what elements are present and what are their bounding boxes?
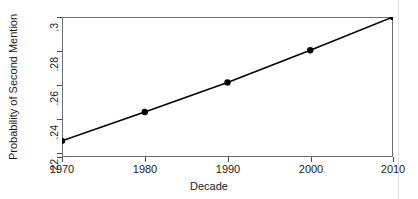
y-tick-1	[57, 153, 62, 154]
x-tick-label-2000: 2000	[299, 163, 323, 175]
x-tick-label-2010: 2010	[381, 163, 405, 175]
y-tick-5	[57, 17, 62, 18]
data-point-1980	[142, 109, 148, 115]
y-tick-3	[57, 85, 62, 86]
series-line	[62, 17, 393, 141]
x-tick-1990	[228, 157, 229, 162]
x-tick-2010	[393, 157, 394, 162]
x-tick-label-1990: 1990	[216, 163, 240, 175]
x-tick-1980	[145, 157, 146, 162]
y-tick-4	[57, 51, 62, 52]
x-axis-title: Decade	[0, 180, 418, 192]
data-point-1990	[224, 79, 230, 85]
y-tick-label-24: .24	[48, 125, 60, 140]
data-point-1970	[62, 138, 65, 144]
x-tick-label-1980: 1980	[133, 163, 157, 175]
data-point-2010	[390, 17, 393, 20]
data-point-2000	[307, 47, 313, 53]
x-tick-2000	[311, 157, 312, 162]
y-tick-label-3: .3	[48, 23, 60, 32]
x-tick-1970	[62, 157, 63, 162]
plot-data-layer	[62, 17, 393, 157]
y-tick-2	[57, 119, 62, 120]
chart-screenshot: .22 .24 .26 .28 .3 1970 1980 1990 2000 2…	[0, 0, 418, 199]
x-tick-label-1970: 1970	[50, 163, 74, 175]
y-tick-label-28: .28	[48, 57, 60, 72]
series-markers	[62, 17, 393, 144]
y-axis-title: Probability of Second Mention	[7, 14, 19, 160]
y-tick-label-26: .26	[48, 91, 60, 106]
